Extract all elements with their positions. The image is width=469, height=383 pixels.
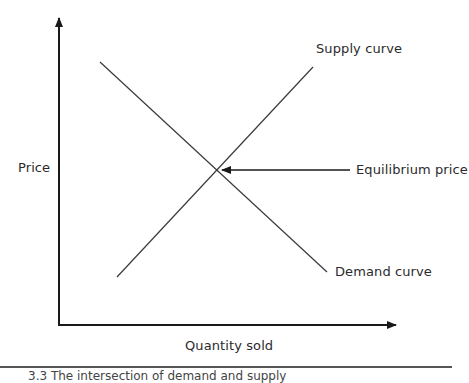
supply-curve [117, 67, 313, 277]
demand-curve-label: Demand curve [335, 264, 432, 279]
figure-caption: 3.3 The intersection of demand and suppl… [28, 369, 286, 383]
equilibrium-price-label: Equilibrium price [356, 162, 468, 177]
caption-divider [0, 366, 452, 368]
x-axis-label: Quantity sold [185, 338, 273, 353]
demand-curve [100, 62, 327, 272]
y-axis-label: Price [18, 160, 50, 175]
supply-curve-label: Supply curve [316, 41, 402, 56]
